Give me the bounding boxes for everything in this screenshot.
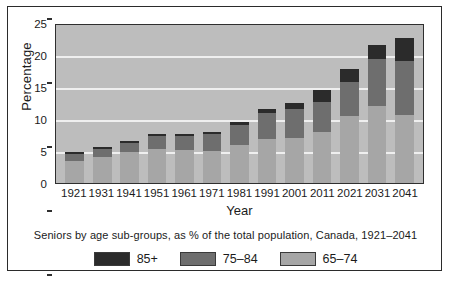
x-tick-1951: 1951 <box>143 187 171 199</box>
x-tick-2011: 2011 <box>308 187 336 199</box>
legend-swatch-icon <box>180 252 216 266</box>
x-tick-1981: 1981 <box>226 187 254 199</box>
stacked-bar[interactable] <box>120 141 139 183</box>
bar-segment-6574-1941[interactable] <box>120 152 139 183</box>
stacked-bar[interactable] <box>148 134 167 183</box>
bar-segment-7584-2031[interactable] <box>368 59 387 106</box>
bar-segment-6574-1971[interactable] <box>203 151 222 183</box>
bar-segment-6574-1981[interactable] <box>230 145 249 183</box>
bar-segment-7584-1931[interactable] <box>93 149 112 157</box>
bar-segment-6574-2021[interactable] <box>340 116 359 183</box>
x-tick-1921: 1921 <box>60 187 88 199</box>
bar-column-1961[interactable] <box>171 25 198 183</box>
bar-column-1921[interactable] <box>61 25 88 183</box>
bar-segment-85+-2041[interactable] <box>395 38 414 61</box>
plot-region <box>55 24 424 184</box>
bar-segment-7584-2001[interactable] <box>285 109 304 138</box>
y-tickmark-5 <box>47 274 52 276</box>
bar-segment-7584-2011[interactable] <box>313 102 332 132</box>
bar-segment-7584-2021[interactable] <box>340 82 359 116</box>
legend-swatch-icon <box>280 252 316 266</box>
bar-segment-85+-2021[interactable] <box>340 69 359 82</box>
x-tick-1961: 1961 <box>170 187 198 199</box>
y-tick-0: 0 <box>41 178 47 190</box>
stacked-bar[interactable] <box>340 69 359 183</box>
bar-column-1971[interactable] <box>198 25 225 183</box>
legend-item-7584[interactable]: 75–84 <box>180 252 258 266</box>
stacked-bar[interactable] <box>368 45 387 183</box>
stacked-bar[interactable] <box>230 122 249 183</box>
stacked-bar[interactable] <box>285 103 304 183</box>
bar-segment-6574-1921[interactable] <box>65 161 84 183</box>
bar-segment-6574-2031[interactable] <box>368 106 387 183</box>
stacked-bar[interactable] <box>65 152 84 183</box>
legend-item-6574[interactable]: 65–74 <box>280 252 358 266</box>
bar-column-1981[interactable] <box>226 25 253 183</box>
bar-segment-7584-1991[interactable] <box>258 113 277 139</box>
y-tickmark-10 <box>47 210 52 212</box>
bar-segment-7584-1961[interactable] <box>175 136 194 150</box>
bar-segment-85+-2011[interactable] <box>313 90 332 102</box>
bar-segment-6574-1961[interactable] <box>175 150 194 183</box>
bar-series-container <box>56 25 423 183</box>
bar-segment-6574-2001[interactable] <box>285 138 304 183</box>
legend-label: 75–84 <box>223 252 258 266</box>
bar-segment-7584-1941[interactable] <box>120 143 139 153</box>
x-axis-tick-labels: 1921193119411951196119711981199120012011… <box>55 187 424 199</box>
bar-segment-6574-2011[interactable] <box>313 132 332 183</box>
bar-segment-7584-2041[interactable] <box>395 61 414 115</box>
y-tickmark-15 <box>47 146 52 148</box>
legend-item-85+[interactable]: 85+ <box>94 252 158 266</box>
y-axis-tick-labels: 0510152025 <box>8 24 52 184</box>
y-tick-25: 25 <box>34 18 47 30</box>
x-tick-2041: 2041 <box>391 187 419 199</box>
x-tick-2031: 2031 <box>364 187 392 199</box>
chart-caption: Seniors by age sub-groups, as % of the t… <box>8 229 443 241</box>
y-tickmark-25 <box>47 18 52 20</box>
bar-column-2041[interactable] <box>391 25 418 183</box>
y-tickmark-20 <box>47 82 52 84</box>
bar-segment-7584-1921[interactable] <box>65 154 84 161</box>
bar-column-2031[interactable] <box>363 25 390 183</box>
chart-area: Percentage 0510152025 192119311941195119… <box>8 7 443 203</box>
legend-swatch-icon <box>94 252 130 266</box>
bar-column-2011[interactable] <box>308 25 335 183</box>
bar-segment-85+-2031[interactable] <box>368 45 387 59</box>
stacked-bar[interactable] <box>313 90 332 183</box>
x-tick-2021: 2021 <box>336 187 364 199</box>
x-tick-1931: 1931 <box>88 187 116 199</box>
bar-segment-6574-2041[interactable] <box>395 115 414 183</box>
bar-column-1931[interactable] <box>88 25 115 183</box>
bar-column-2021[interactable] <box>336 25 363 183</box>
y-tick-15: 15 <box>34 82 47 94</box>
bar-segment-6574-1951[interactable] <box>148 149 167 183</box>
bar-column-1951[interactable] <box>143 25 170 183</box>
stacked-bar[interactable] <box>175 134 194 183</box>
y-tick-10: 10 <box>34 114 47 126</box>
x-tick-2001: 2001 <box>281 187 309 199</box>
x-tick-1971: 1971 <box>198 187 226 199</box>
bar-segment-6574-1991[interactable] <box>258 139 277 183</box>
stacked-bar[interactable] <box>203 132 222 183</box>
stacked-bar[interactable] <box>395 38 414 183</box>
bar-segment-6574-1931[interactable] <box>93 157 112 183</box>
y-tick-20: 20 <box>34 50 47 62</box>
bar-segment-7584-1971[interactable] <box>203 134 222 151</box>
x-tick-1941: 1941 <box>115 187 143 199</box>
bar-column-2001[interactable] <box>281 25 308 183</box>
stacked-bar[interactable] <box>93 147 112 183</box>
legend-label: 85+ <box>137 252 158 266</box>
x-axis-title: Year <box>55 203 424 218</box>
legend-label: 65–74 <box>323 252 358 266</box>
stacked-bar[interactable] <box>258 109 277 183</box>
y-tick-5: 5 <box>41 146 47 158</box>
x-tick-1991: 1991 <box>253 187 281 199</box>
bar-column-1941[interactable] <box>116 25 143 183</box>
bar-segment-7584-1981[interactable] <box>230 125 249 145</box>
chart-figure: Percentage 0510152025 192119311941195119… <box>7 6 442 271</box>
bar-segment-7584-1951[interactable] <box>148 136 167 149</box>
chart-legend: 85+75–8465–74 <box>8 252 443 266</box>
bar-column-1991[interactable] <box>253 25 280 183</box>
